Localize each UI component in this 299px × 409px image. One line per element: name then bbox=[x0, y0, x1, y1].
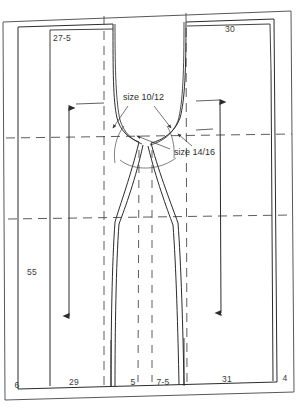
crotch-curve-left-outer bbox=[113, 24, 139, 142]
center-grainlines bbox=[138, 150, 152, 382]
label-top-right-width: 30 bbox=[225, 24, 235, 34]
vertical-guides bbox=[104, 13, 187, 386]
crotch-curve-left-inner bbox=[115, 24, 142, 144]
construction-rectangle bbox=[18, 19, 277, 389]
dimension-ticks bbox=[76, 100, 220, 130]
right-grainline bbox=[186, 13, 187, 384]
right-dimension-arrow bbox=[220, 102, 221, 313]
right-side-seam bbox=[271, 70, 273, 381]
horizontal-guides bbox=[6, 134, 292, 219]
label-size-14-16: size 14/16 bbox=[174, 147, 215, 157]
center-grainline-left bbox=[138, 150, 139, 382]
label-left-height: 55 bbox=[27, 267, 37, 277]
label-bottom-far-left: 6 bbox=[15, 380, 20, 390]
label-top-left-width: 27-5 bbox=[53, 33, 71, 43]
pattern-drawing: 27-5 30 size 10/12 size 14/16 55 6 29 5 … bbox=[0, 0, 299, 409]
hip-guide-line bbox=[6, 134, 292, 138]
label-bottom-center-right: 7-5 bbox=[157, 377, 170, 387]
pattern-diagram-root: 27-5 30 size 10/12 size 14/16 55 6 29 5 … bbox=[0, 0, 299, 409]
bottom-dividers bbox=[111, 338, 184, 387]
label-bottom-center-left: 5 bbox=[131, 377, 136, 387]
label-bottom-left: 29 bbox=[69, 377, 79, 387]
inseam-right bbox=[148, 143, 184, 385]
label-bottom-right: 31 bbox=[222, 374, 232, 384]
knee-guide-line bbox=[8, 215, 292, 219]
label-bottom-far-right: 4 bbox=[283, 373, 288, 383]
label-size-10-12: size 10/12 bbox=[123, 92, 164, 102]
outer-frame bbox=[3, 11, 294, 400]
